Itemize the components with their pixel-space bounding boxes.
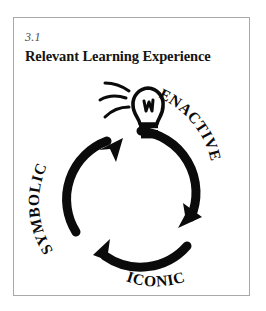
stage-label-iconic-text: ICONIC: [125, 268, 187, 290]
arrow-symbolic: [67, 138, 123, 232]
cycle-arrows: [67, 131, 202, 267]
figure-page: 3.1 Relevant Learning Experience: [0, 0, 266, 311]
arrow-iconic: [93, 239, 187, 267]
stage-label-enactive: ENACTIVE: [157, 85, 225, 163]
stage-label-symbolic: SYMBOLIC: [25, 160, 56, 258]
arrow-enactive: [141, 131, 202, 228]
stage-label-iconic: ICONIC: [125, 268, 187, 290]
lightbulb-shine-icon: [100, 83, 129, 117]
stage-label-enactive-text: ENACTIVE: [157, 85, 225, 163]
learning-cycle-diagram: ENACTIVE ICONIC SYMBOLIC: [13, 17, 250, 296]
stage-label-symbolic-text: SYMBOLIC: [25, 160, 56, 258]
